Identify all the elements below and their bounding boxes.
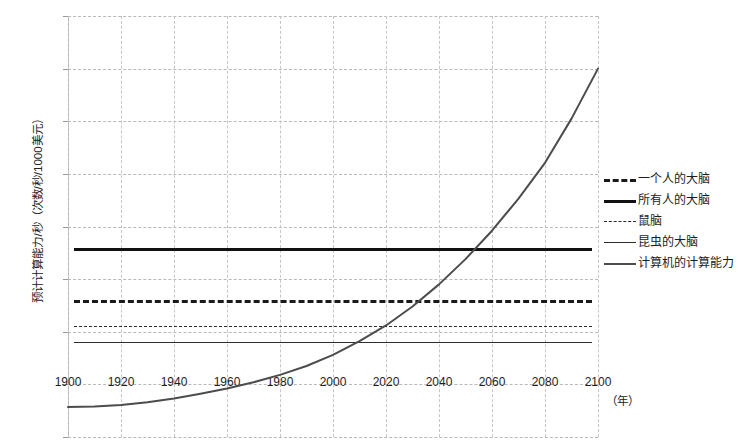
legend-item-0[interactable]: 一个人的大脑 <box>604 168 739 189</box>
plot-area: 706050403020100-10 190019201940196019802… <box>68 16 598 437</box>
legend-label-1: 所有人的大脑 <box>638 194 710 206</box>
legend-swatch-icon-4 <box>604 257 636 269</box>
legend-item-2[interactable]: 鼠脑 <box>604 210 739 231</box>
legend-label-0: 一个人的大脑 <box>638 173 710 185</box>
gridline-x-2100 <box>598 16 599 437</box>
chart-legend: 一个人的大脑所有人的大脑鼠脑昆虫的大脑计算机的计算能力 <box>604 168 739 273</box>
y-axis-title: 预计计算能力/秒（次数/秒/1000美元） <box>29 63 45 353</box>
legend-swatch-icon-3 <box>604 236 636 248</box>
legend-swatch-icon-1 <box>604 194 636 206</box>
tick-mark-y--10 <box>63 437 68 438</box>
x-axis-title: （年） <box>606 392 639 408</box>
computer-capability-curve <box>68 16 598 437</box>
legend-label-2: 鼠脑 <box>638 215 662 227</box>
gridline-y--10 <box>68 437 598 438</box>
legend-item-3[interactable]: 昆虫的大脑 <box>604 231 739 252</box>
legend-item-1[interactable]: 所有人的大脑 <box>604 189 739 210</box>
legend-label-3: 昆虫的大脑 <box>638 236 698 248</box>
legend-label-4: 计算机的计算能力 <box>638 257 734 269</box>
legend-swatch-icon-2 <box>604 215 636 227</box>
chart-container: 预计计算能力/秒（次数/秒/1000美元） 706050403020100-10… <box>0 0 739 442</box>
legend-swatch-icon-0 <box>604 173 636 185</box>
legend-item-4[interactable]: 计算机的计算能力 <box>604 252 739 273</box>
